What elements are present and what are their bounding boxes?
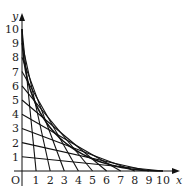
x-tick-label: 8 xyxy=(131,174,138,187)
y-tick-label: 7 xyxy=(12,66,19,79)
y-tick-label: 6 xyxy=(12,80,19,93)
x-tick-label: 9 xyxy=(145,174,152,187)
x-tick-label: 2 xyxy=(47,174,54,187)
y-tick-label: 10 xyxy=(5,23,19,36)
x-tick-label: 1 xyxy=(33,174,40,187)
line-segment xyxy=(22,43,50,171)
y-tick-label: 8 xyxy=(12,51,19,64)
x-tick-label: 6 xyxy=(103,174,110,187)
line-segment xyxy=(22,72,78,171)
y-tick-label: 3 xyxy=(12,122,19,135)
x-tick-labels: 12345678910 xyxy=(33,174,170,187)
y-tick-label: 2 xyxy=(12,137,19,150)
line-segment xyxy=(22,143,149,171)
x-axis-label: x xyxy=(176,174,183,187)
y-tick-label: 9 xyxy=(12,37,19,50)
y-axis-arrow-icon xyxy=(19,13,25,21)
x-tick-label: 5 xyxy=(89,174,96,187)
y-axis-label: y xyxy=(11,10,19,23)
line-segment xyxy=(22,114,121,171)
y-tick-label: 1 xyxy=(12,151,19,164)
y-tick-label: 5 xyxy=(12,94,19,107)
origin-label: O xyxy=(11,174,20,187)
x-tick-label: 3 xyxy=(61,174,68,187)
y-tick-labels: 12345678910 xyxy=(5,23,19,164)
x-tick-label: 4 xyxy=(75,174,82,187)
envelope-curve xyxy=(22,29,163,171)
line-segment xyxy=(22,128,135,171)
line-segments xyxy=(22,29,163,171)
envelope-diagram: x y O 12345678910 12345678910 xyxy=(0,0,190,196)
y-tick-label: 4 xyxy=(12,108,19,121)
x-tick-label: 7 xyxy=(117,174,124,187)
x-tick-label: 10 xyxy=(156,174,170,187)
